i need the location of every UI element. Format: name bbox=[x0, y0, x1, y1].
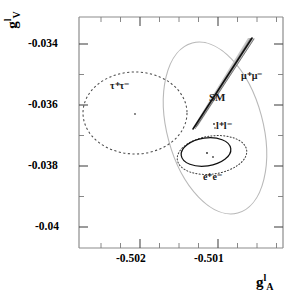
x-tick-label-1: -0.501 bbox=[194, 252, 224, 264]
x-axis-label-base: g bbox=[256, 274, 264, 290]
y-tick-label-1: -0.036 bbox=[28, 98, 58, 110]
y-axis-label: glV bbox=[2, 0, 22, 40]
y-axis-label-base: g bbox=[4, 21, 20, 29]
y-axis-label-sub: V bbox=[11, 11, 22, 18]
marker-ll-center bbox=[213, 123, 215, 125]
y-axis-label-sup: l bbox=[2, 18, 13, 21]
y-tick-label-3: -0.04 bbox=[35, 220, 59, 232]
annotation-mu-mu: μ⁺μ⁻ bbox=[241, 70, 262, 81]
x-tick-label-0: -0.502 bbox=[116, 252, 146, 264]
marker-l-l bbox=[206, 152, 208, 154]
plot-background bbox=[79, 17, 283, 248]
y-tick-label-0: -0.034 bbox=[28, 37, 58, 49]
marker-e-e bbox=[212, 156, 214, 158]
x-axis-label: glA bbox=[256, 272, 274, 292]
marker-tau-tau bbox=[134, 113, 136, 115]
annotation-e-e: e⁺e⁻ bbox=[203, 171, 222, 182]
annotation-sm: SM bbox=[209, 91, 226, 103]
x-axis-label-sub: A bbox=[266, 281, 273, 292]
y-tick-label-2: -0.038 bbox=[28, 159, 58, 171]
annotation-tau-tau: τ⁺τ⁻ bbox=[110, 80, 129, 91]
annotation-l-l: l⁺l⁻ bbox=[216, 120, 232, 131]
